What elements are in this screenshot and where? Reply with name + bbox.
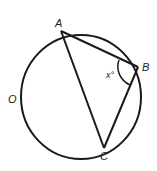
label-b: B [142, 61, 149, 73]
label-a: A [54, 17, 62, 29]
label-c: C [100, 150, 108, 162]
label-o: O [8, 93, 17, 105]
angle-arc-b [118, 60, 130, 85]
circle-o [21, 35, 141, 159]
geometry-diagram: A B C O x° [0, 0, 157, 171]
label-angle-x: x° [105, 70, 115, 80]
diagram-canvas: A B C O x° [0, 0, 157, 171]
